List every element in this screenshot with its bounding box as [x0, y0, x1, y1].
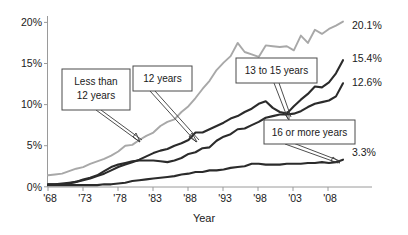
y-tick-label: 15% — [21, 57, 42, 69]
callout-leader-line — [150, 91, 196, 142]
callout-label: 13 to 15 years — [245, 65, 308, 76]
callout-16-or-more: 16 or more years — [264, 120, 355, 163]
x-tick-label: '03 — [288, 192, 302, 204]
y-axis: 20% 15% 10% 5% 0% — [21, 16, 48, 193]
y-tick-label: 0% — [27, 181, 42, 193]
x-tick-label: '78 — [113, 192, 127, 204]
callout-12-years: 12 years — [133, 66, 199, 142]
end-label-13-to-15: 12.6% — [352, 76, 382, 88]
chart-canvas: 20% 15% 10% 5% 0% '68 '73 '7 — [0, 0, 408, 235]
x-tick-label: '98 — [253, 192, 267, 204]
end-label-less-than-12: 20.1% — [352, 19, 382, 31]
x-tick-label: '83 — [148, 192, 162, 204]
y-tick-label: 5% — [27, 139, 42, 151]
callout-arrow-head — [189, 133, 197, 142]
callout-label-line1: Less than — [74, 76, 117, 87]
x-tick-label: '88 — [183, 192, 197, 204]
x-tick-label: '93 — [218, 192, 232, 204]
callout-label: 12 years — [143, 73, 181, 84]
series-end-labels: 20.1% 15.4% 12.6% 3.3% — [352, 19, 382, 158]
callout-less-than-12: Less than 12 years — [62, 69, 142, 142]
x-axis-title: Year — [193, 212, 216, 224]
y-tick-label: 20% — [21, 16, 42, 28]
end-label-12-years: 15.4% — [352, 52, 382, 64]
callout-leader-line — [101, 110, 142, 140]
callout-label-line2: 12 years — [77, 90, 115, 101]
callout-leader-line — [285, 144, 338, 163]
x-tick-label: '73 — [78, 192, 92, 204]
line-chart: 20% 15% 10% 5% 0% '68 '73 '7 — [0, 0, 408, 235]
callout-label: 16 or more years — [272, 127, 348, 138]
x-tick-label: '08 — [323, 192, 337, 204]
x-tick-label: '68 — [43, 192, 57, 204]
y-tick-label: 10% — [21, 98, 42, 110]
x-axis: '68 '73 '78 '83 '88 '93 '98 '03 '08 Year — [43, 187, 372, 224]
end-label-16-or-more: 3.3% — [352, 146, 376, 158]
callout-leader-line — [155, 91, 199, 140]
